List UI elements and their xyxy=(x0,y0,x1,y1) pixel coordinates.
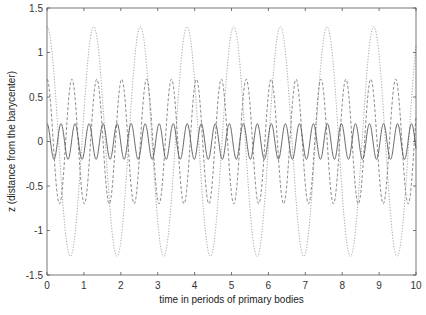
x-tick-label: 10 xyxy=(410,280,422,291)
y-tick-label: 1.5 xyxy=(29,3,43,14)
y-tick-label: 0.5 xyxy=(29,92,43,103)
x-tick-label: 0 xyxy=(44,280,50,291)
x-tick-label: 4 xyxy=(192,280,198,291)
y-tick-label: 0 xyxy=(37,136,43,147)
y-axis-label: z (distance from the barycenter) xyxy=(6,71,17,212)
x-tick-label: 2 xyxy=(118,280,124,291)
x-axis-label: time in periods of primary bodies xyxy=(159,294,304,305)
x-tick-label: 8 xyxy=(339,280,345,291)
x-tick-label: 3 xyxy=(155,280,161,291)
x-tick-label: 6 xyxy=(266,280,272,291)
x-tick-label: 9 xyxy=(376,280,382,291)
chart: 012345678910 -1.5-1-0.500.511.5 time in … xyxy=(0,0,426,315)
y-tick-label: -1.5 xyxy=(26,270,44,281)
y-tick-label: -0.5 xyxy=(26,181,44,192)
x-tick-label: 1 xyxy=(81,280,87,291)
x-tick-label: 5 xyxy=(229,280,235,291)
figure-background xyxy=(0,0,426,315)
y-tick-label: 1 xyxy=(37,47,43,58)
x-tick-label: 7 xyxy=(303,280,309,291)
y-tick-label: -1 xyxy=(34,225,43,236)
